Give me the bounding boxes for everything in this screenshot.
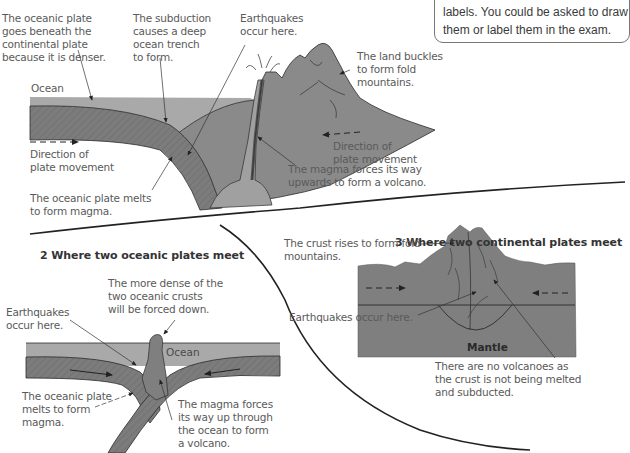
label-crust-rises: The crust rises to form fold mountains. — [284, 237, 420, 263]
eruption-icon — [246, 54, 280, 72]
label-subduction-trench: The subduction causes a deep ocean trenc… — [133, 12, 211, 64]
label-no-volcanoes: There are no volcanoes as the crust is n… — [435, 360, 581, 399]
label-direction-left: Direction of plate movement — [30, 148, 114, 174]
heading-section2: 2 Where two oceanic plates meet — [40, 249, 244, 262]
label-magma-volcano: The magma forces its way upwards to form… — [288, 163, 426, 189]
label-earthquakes-3: Earthquakes occur here. — [289, 311, 413, 324]
label-ocean-2: Ocean — [166, 346, 200, 358]
label-plate-melts: The oceanic plate melts to form magma. — [30, 192, 151, 218]
label-earthquakes-1: Earthquakes occur here. — [240, 12, 303, 38]
label-plate-melts-2: The oceanic plate melts to form magma. — [22, 390, 112, 429]
label-ocean-1: Ocean — [31, 82, 64, 95]
label-more-dense: The more dense of the two oceanic crusts… — [108, 277, 223, 316]
label-mantle: Mantle — [467, 341, 508, 353]
label-earthquakes-2: Earthquakes occur here. — [6, 306, 69, 332]
label-land-buckles: The land buckles to form fold mountains. — [357, 50, 443, 89]
label-oceanic-plate-denser: The oceanic plate goes beneath the conti… — [2, 12, 106, 64]
label-magma-up: The magma forces its way up through the … — [178, 398, 273, 450]
heading-section3: 3 Where two continental plates meet — [395, 236, 622, 249]
